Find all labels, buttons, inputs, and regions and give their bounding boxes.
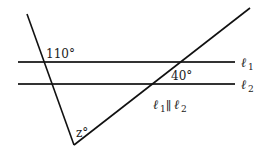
angle-z-label: z° <box>76 126 88 140</box>
line-l1-subscript: 1 <box>248 62 254 72</box>
parallel-symbol: ∥ <box>166 99 172 113</box>
parallel-note-l2: ℓ <box>174 97 180 112</box>
line-l2-subscript: 2 <box>248 84 254 94</box>
line-l2-label: ℓ <box>241 77 247 92</box>
geometry-diagram: 110° 40° z° ℓ 1 ℓ 2 ℓ 1 ∥ ℓ 2 <box>0 0 268 153</box>
parallel-note-l1-sub: 1 <box>160 104 166 114</box>
angle-40-label: 40° <box>171 69 192 83</box>
transversal-right <box>74 8 250 145</box>
transversal-left <box>27 14 74 145</box>
parallel-note-l1: ℓ <box>153 97 159 112</box>
parallel-note: ℓ 1 ∥ ℓ 2 <box>153 97 187 114</box>
parallel-note-l2-sub: 2 <box>181 104 187 114</box>
line-l1-label: ℓ <box>241 55 247 70</box>
angle-110-label: 110° <box>46 47 75 61</box>
